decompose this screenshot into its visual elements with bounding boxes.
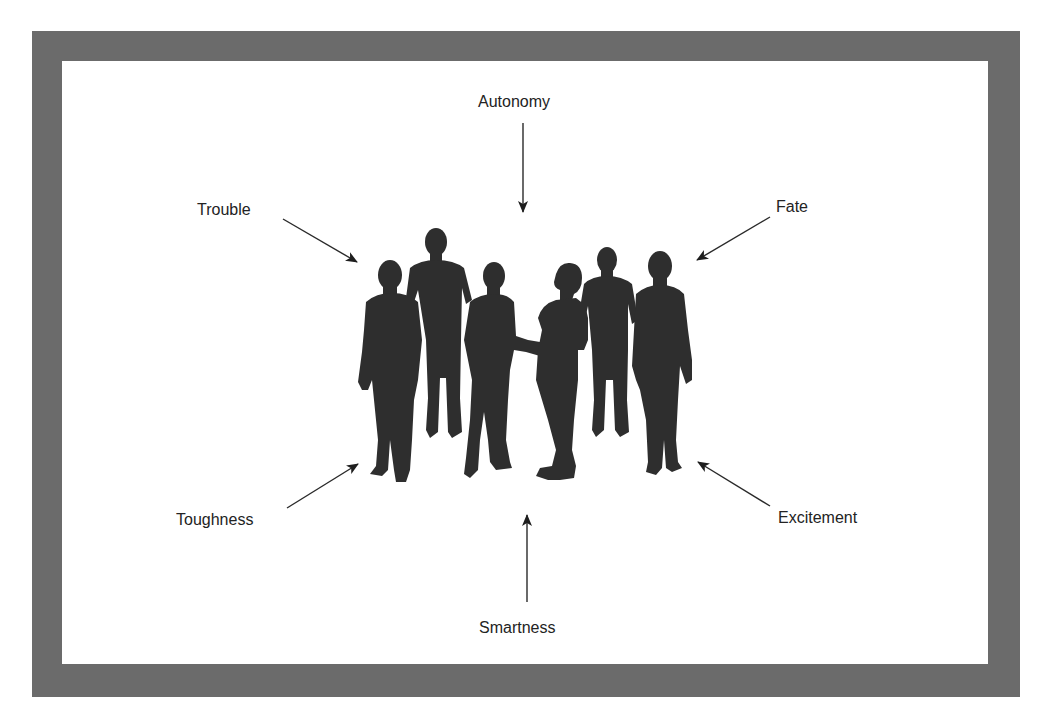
arrow-trouble (283, 219, 357, 262)
arrow-excitement (698, 462, 770, 506)
label-excitement: Excitement (778, 510, 857, 526)
person-silhouette-6 (632, 251, 692, 475)
label-fate: Fate (776, 199, 808, 215)
label-toughness: Toughness (176, 512, 253, 528)
label-trouble: Trouble (197, 202, 251, 218)
person-silhouette-3 (464, 262, 546, 478)
arrow-fate (697, 217, 770, 260)
arrow-toughness (287, 464, 358, 508)
person-silhouette-4 (536, 263, 588, 480)
people-group-silhouette (358, 228, 692, 482)
label-smartness: Smartness (479, 620, 555, 636)
label-autonomy: Autonomy (478, 94, 550, 110)
